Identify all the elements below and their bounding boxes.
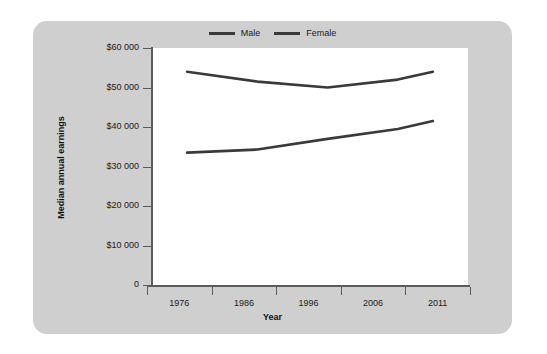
x-axis-tick-label: 1986 xyxy=(234,299,254,308)
y-axis-tick xyxy=(143,285,152,286)
y-axis-title: Median annual earnings xyxy=(57,93,66,243)
x-axis-tick-label: 2006 xyxy=(363,299,383,308)
x-axis-tick xyxy=(276,287,277,295)
x-axis-title: Year xyxy=(33,313,512,322)
y-axis-tick xyxy=(143,127,152,128)
x-axis-tick-group: 19761986199620062011 xyxy=(33,21,512,334)
chart-figure-panel: Male Female 0$10 000$20 000$30 000$40 00… xyxy=(33,21,512,334)
x-axis-tick-label: 1976 xyxy=(169,299,189,308)
x-axis-tick xyxy=(405,287,406,295)
y-axis-tick xyxy=(143,206,152,207)
y-axis-tick xyxy=(143,167,152,168)
x-axis-tick xyxy=(147,287,148,295)
x-axis-tick xyxy=(470,287,471,295)
x-axis-tick xyxy=(341,287,342,295)
x-axis-tick-label: 1996 xyxy=(298,299,318,308)
x-axis-tick xyxy=(212,287,213,295)
y-axis-tick xyxy=(143,246,152,247)
y-axis-tick xyxy=(143,88,152,89)
y-axis-tick xyxy=(143,48,152,49)
x-axis-tick-label: 2011 xyxy=(428,299,447,308)
